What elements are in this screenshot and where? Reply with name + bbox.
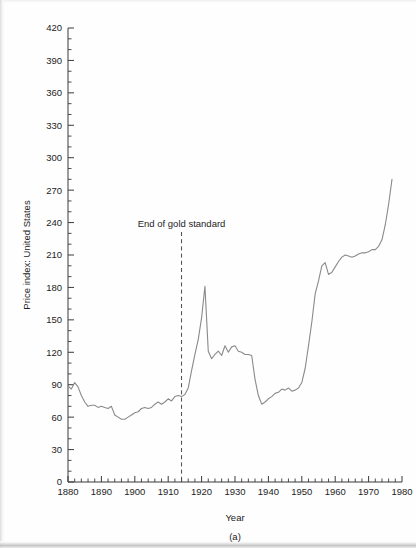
x-tick-label: 1960 (325, 486, 346, 497)
y-tick-label: 150 (46, 314, 62, 325)
x-tick-label: 1930 (224, 486, 245, 497)
y-axis-tick-labels: 0306090120150180210240270300330360390420 (46, 22, 62, 487)
x-axis: 1880189019001910192019301940195019601970… (57, 476, 412, 497)
price-index-series-line (68, 179, 392, 419)
y-tick-label: 360 (46, 87, 62, 98)
y-tick-label: 420 (46, 22, 62, 33)
y-tick-label: 120 (46, 347, 62, 358)
x-tick-label: 1980 (391, 486, 412, 497)
x-tick-label: 1940 (258, 486, 279, 497)
y-tick-label: 60 (51, 412, 62, 423)
x-axis-ticks (68, 476, 402, 482)
x-axis-tick-labels: 1880189019001910192019301940195019601970… (57, 486, 412, 497)
y-tick-label: 300 (46, 152, 62, 163)
y-tick-label: 390 (46, 55, 62, 66)
x-tick-label: 1950 (291, 486, 312, 497)
y-tick-label: 330 (46, 120, 62, 131)
y-tick-label: 270 (46, 185, 62, 196)
y-tick-label: 30 (51, 444, 62, 455)
end-of-gold-standard-label: End of gold standard (138, 218, 226, 229)
y-tick-label: 240 (46, 217, 62, 228)
panel-label: (a) (229, 531, 241, 542)
y-tick-label: 90 (51, 379, 62, 390)
x-tick-label: 1920 (191, 486, 212, 497)
price-index-line-chart: 0306090120150180210240270300330360390420… (0, 0, 416, 548)
y-tick-label: 210 (46, 249, 62, 260)
x-tick-label: 1880 (57, 486, 78, 497)
scanned-page: 0306090120150180210240270300330360390420… (0, 0, 416, 548)
y-axis-title: Price index: United States (21, 200, 32, 310)
x-tick-label: 1910 (158, 486, 179, 497)
y-axis: 0306090120150180210240270300330360390420 (46, 22, 74, 487)
x-tick-label: 1970 (358, 486, 379, 497)
x-tick-label: 1890 (91, 486, 112, 497)
x-axis-title: Year (225, 512, 244, 523)
y-axis-ticks (68, 28, 74, 482)
x-tick-label: 1900 (124, 486, 145, 497)
y-tick-label: 180 (46, 282, 62, 293)
